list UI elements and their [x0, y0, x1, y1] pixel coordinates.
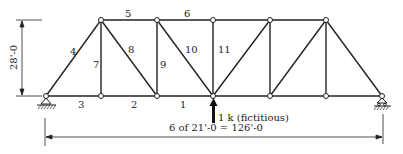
height-dimension: [16, 20, 42, 96]
load-arrow-icon: [210, 98, 218, 123]
member-label-8: 8: [128, 45, 134, 55]
member-label-10: 10: [185, 45, 198, 55]
end-diagonal-right: [326, 20, 382, 96]
member-8: [101, 20, 157, 96]
pin-support-icon: [37, 98, 56, 109]
member-label-2: 2: [131, 100, 137, 110]
member-label-9: 9: [160, 60, 166, 70]
member-label-7: 7: [93, 60, 99, 70]
member-4: [46, 20, 101, 96]
diagonal-right-2: [270, 20, 326, 96]
height-label: 28'-0: [8, 45, 19, 70]
member-label-6: 6: [184, 9, 190, 19]
span-label: 6 of 21'-0 = 126'-0: [169, 123, 263, 133]
roller-support-icon: [374, 98, 391, 110]
diagonal-right-1: [213, 20, 270, 96]
member-label-4: 4: [70, 47, 76, 57]
member-label-1: 1: [180, 100, 186, 110]
member-label-3: 3: [78, 100, 84, 110]
member-10: [157, 20, 213, 96]
member-label-5: 5: [125, 9, 131, 19]
member-label-11: 11: [218, 45, 231, 55]
